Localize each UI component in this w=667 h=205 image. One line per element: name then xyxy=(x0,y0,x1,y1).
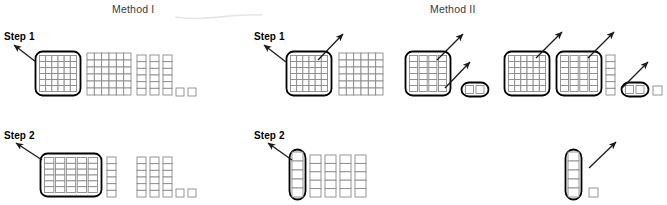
m1-s1-unit-b-cell xyxy=(188,88,196,96)
m1-s1-rod-c-cell xyxy=(163,68,172,75)
scan-smudge-curve xyxy=(176,15,262,19)
m2b-s2-rod-circled-cell xyxy=(568,161,579,170)
m1-s1-flat-plain-cell xyxy=(102,74,109,81)
m2b-s1-rodflat-circled-cell xyxy=(561,80,569,86)
m1-s2-unit-a xyxy=(176,189,184,197)
m1-s2-rodgroup-circled-cell xyxy=(45,158,54,164)
m2b-s1-flat-circled-cell xyxy=(527,68,533,74)
m1-s1-flat-circled-cell xyxy=(40,68,46,74)
m2-s1-flat-circled-cell xyxy=(309,56,315,62)
m2-s1-rodflat-circled xyxy=(406,52,451,96)
m1-s1-flat-circled-cell xyxy=(40,56,46,62)
m2-s1-flat-circled-cell xyxy=(297,74,303,80)
m2-s1-rodflat-circled-cell xyxy=(438,74,446,80)
m1-s1-flat-circled-cell xyxy=(70,56,76,62)
m2-s2-rod-a-cell xyxy=(310,180,321,188)
m1-s1-flat-plain-cell xyxy=(87,53,94,60)
m2-s1-flat-circled-cell xyxy=(303,56,309,62)
m2b-s1-rod-extra-cell xyxy=(606,75,615,82)
m1-s2-rodgroup-circled-cell xyxy=(88,187,97,193)
m1-s2-rod-extra-cell xyxy=(107,184,116,191)
m1-s1-rod-a-cell xyxy=(137,55,146,62)
m1-s1-flat-plain-cell xyxy=(94,53,101,60)
m2b-s1-unit-loose-cell xyxy=(653,86,662,95)
m2-s2-rod-d-cell xyxy=(355,172,366,180)
m2-s1-rodflat-circled-cell xyxy=(419,74,427,80)
m1-s2-rod-a xyxy=(137,157,146,197)
m2b-s1-rodflat-circled-cell xyxy=(589,68,597,74)
m2b-s1-rodflat-circled-cell xyxy=(561,56,569,62)
m1-s1-flat-circled-cell xyxy=(64,56,70,62)
m2-s1-flat-circled-cell xyxy=(297,62,303,68)
m2-s1-flat-circled-cell xyxy=(291,86,297,92)
m1-s2-rod-extra-cell xyxy=(107,177,116,184)
m2-s1-flat-circled-cell xyxy=(321,68,327,74)
m2b-s1-flat-circled-cell xyxy=(539,86,545,92)
m1-s2-rodgroup-circled-cell xyxy=(45,175,54,181)
m1-s2-rod-extra-cell xyxy=(107,190,116,197)
m2-s1-flat-plain-cell xyxy=(368,53,375,60)
m1-s2-rodgroup-circled-cell xyxy=(66,158,75,164)
m1-s2-rodgroup-circled-cell xyxy=(66,187,75,193)
m1-s1-flat-circled-cell xyxy=(64,74,70,80)
m2-s1-rodflat-circled-cell xyxy=(438,86,446,92)
m2b-s1-flat-circled-cell xyxy=(527,86,533,92)
m1-s1-rod-b-cell xyxy=(150,62,159,69)
m2-s1-flat-circled-cell xyxy=(291,74,297,80)
m2-s1-rodflat-circled-cell xyxy=(419,56,427,62)
m1-s1-flat-circled-cell xyxy=(58,68,64,74)
m1-s1-flat-plain-cell xyxy=(124,74,131,81)
m2-s1-flat-plain-cell xyxy=(361,88,368,95)
m2b-s1-rodflat-circled-cell xyxy=(570,62,578,68)
m2b-s1-flat-circled-cell xyxy=(527,56,533,62)
m1-s1-flat-plain-cell xyxy=(102,81,109,88)
m2-s1-rodflat-circled-cell xyxy=(419,68,427,74)
m1-s1-rod-a-cell xyxy=(137,82,146,89)
m1-s1-flat-circled-cell xyxy=(40,86,46,92)
m2-s1-flat-circled-cell xyxy=(303,74,309,80)
m1-s1-flat-plain-cell xyxy=(94,74,101,81)
m1-s2-rod-c-cell xyxy=(163,184,172,191)
m2-s1-flat-circled-cell xyxy=(297,56,303,62)
m1-s1-flat-plain-cell xyxy=(87,74,94,81)
m2-s2-rod-b-cell xyxy=(325,163,336,171)
m1-s2-rod-c-cell xyxy=(163,157,172,164)
m2b-s2-rod-circled-cell xyxy=(568,179,579,188)
m1-s1-rod-b-cell xyxy=(150,75,159,82)
m2b-s1-flat-circled-cell xyxy=(515,74,521,80)
m2-s1-flat-circled-cell xyxy=(321,62,327,68)
m1-s1-flat-circled-cell xyxy=(52,56,58,62)
m2b-s1-unit-loose xyxy=(653,86,662,95)
m1-s2-rodgroup-circled-cell xyxy=(77,187,86,193)
m2-s1-flat-circled-cell xyxy=(291,68,297,74)
m1-s2-rod-b-cell xyxy=(150,190,159,197)
m1-s1-flat-circled-cell xyxy=(70,80,76,86)
m1-s1-flat-plain-cell xyxy=(124,88,131,95)
m1-s2-rod-b-cell xyxy=(150,184,159,191)
m2-s2-rod-a-cell xyxy=(310,163,321,171)
m1-s2-rod-b-cell xyxy=(150,177,159,184)
m2-s1-flat-plain-cell xyxy=(354,60,361,67)
m2b-s1-rodflat-circled-cell xyxy=(589,80,597,86)
m1-s1-flat-circled-cell xyxy=(58,86,64,92)
m1-s2-rodgroup-circled xyxy=(41,154,102,197)
m2-s2-rod-c-cell xyxy=(340,180,351,188)
shapes-layer xyxy=(36,52,663,200)
m2-s1-rodflat-circled-cell xyxy=(438,62,446,68)
m1-s2-rodgroup-circled-cell xyxy=(66,181,75,187)
m1-s1-flat-circled-cell xyxy=(46,80,52,86)
m2-s2-rod-a xyxy=(310,155,321,197)
m2-s2-rod-a-cell xyxy=(310,155,321,163)
m2b-s1-flat-circled-cell xyxy=(509,80,515,86)
m2-s1-flat-circled-cell xyxy=(291,62,297,68)
m2-s1-flat-circled-cell xyxy=(291,80,297,86)
m2-s1-flat-plain-cell xyxy=(339,74,346,81)
m2-s1-flat-plain-cell xyxy=(361,74,368,81)
m1-s1-flat-circled-cell xyxy=(46,68,52,74)
m1-s2-rod-c-cell xyxy=(163,170,172,177)
m1-s2-rod-b-cell xyxy=(150,157,159,164)
m2-s2-rod-b-cell xyxy=(325,155,336,163)
m2-s1-flat-circled-cell xyxy=(309,62,315,68)
m1-s2-rod-c xyxy=(163,157,172,197)
m2-s1-flat-circled-cell xyxy=(309,86,315,92)
